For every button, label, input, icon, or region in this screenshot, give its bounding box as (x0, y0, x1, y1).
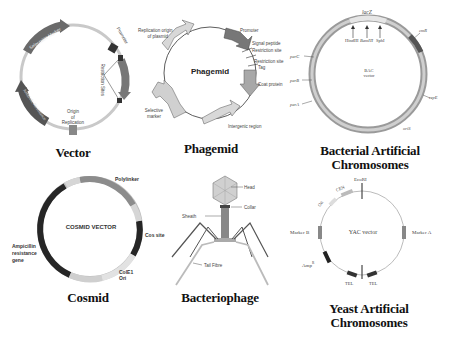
bac-parb-label: parB (290, 78, 299, 84)
selective-marker-line1: Selective (142, 108, 166, 114)
bac-hindiii-label: HindIII (345, 38, 359, 44)
replication-origin-line1: Replication origin (138, 28, 168, 34)
vector-plasmid-diagram (0, 0, 150, 165)
bacteriophage-diagram (150, 165, 290, 338)
phagemid-center-label: Phagemid (184, 67, 236, 76)
yac-marker-b-label: Marker B (290, 230, 309, 236)
phagemid-replication-origin-label: Replication origin of plasmid (138, 28, 168, 39)
yac-panel: EcoRI CEN Ori Marker B Marker A AmpR TEL… (290, 165, 449, 338)
yac-tel-right-label: TEL (369, 281, 377, 287)
bac-repe-label: repE (429, 95, 438, 101)
bac-center-line2: vector (354, 73, 384, 78)
amp-superscript: R (312, 261, 314, 265)
cole1-line2: Ori (119, 276, 133, 282)
phagemid-caption: Phagemid (176, 142, 246, 156)
bac-cmr-label: cmR (419, 28, 427, 34)
yac-marker-a-label: Marker A (412, 230, 431, 236)
bacteriophage-caption: Bacteriophage (170, 291, 270, 305)
phage-sheath-label: Sheath (182, 214, 196, 220)
replication-origin-line2: of plasmid (138, 34, 168, 40)
bac-oris-label: oriS (403, 126, 411, 132)
cosmid-cole1-label: ColE1 Ori (119, 270, 133, 281)
amp-text: Amp (302, 263, 312, 268)
bac-caption-line1: Bacterial Artificial (310, 144, 430, 158)
yac-tel-left-label: TEL (345, 281, 353, 287)
bac-center-label: BAC vector (354, 68, 384, 78)
amp-line1: Ampicillin (12, 243, 37, 250)
vector-origin-label: Origin of Replication (56, 109, 90, 126)
phagemid-restriction-site-1-label: Restriction site (252, 48, 282, 54)
cosmid-center-label: COSMID VECTOR (58, 224, 124, 230)
bac-lacz-label: lacZ (362, 9, 372, 15)
yac-center-label: YAC vector (338, 229, 388, 235)
bac-bamhi-label: BamHI (360, 38, 373, 44)
amp-line3: gene (12, 257, 37, 264)
cosmid-caption: Cosmid (60, 291, 116, 305)
phage-collar-label: Collar (244, 205, 256, 211)
yac-amp-label: AmpR (302, 260, 314, 269)
phagemid-intergenic-label: Intergenic region (228, 124, 262, 130)
phagemid-restriction-site-2-label: Restriction site (254, 59, 284, 65)
phage-head-label: Head (244, 185, 255, 191)
cosmid-polylinker-label: Polylinker (115, 177, 139, 183)
yac-caption-line1: Yeast Artificial (314, 302, 424, 316)
origin-line3: Replication (56, 120, 90, 126)
phagemid-coat-protein-label: Coat protein (258, 82, 283, 88)
phage-tail-fibre-label: Tail Fibre (204, 263, 222, 269)
bac-parc-label: parC (290, 54, 299, 60)
amp-line2: resistance (12, 250, 37, 257)
bac-sphi-label: SphI (376, 38, 385, 44)
phagemid-promoter-label: Promoter (240, 28, 259, 34)
vector-restriction-sites-label: Restriction Sites (100, 63, 106, 96)
vector-caption: Vector (40, 146, 106, 160)
yac-caption-line2: Chromosomes (314, 316, 424, 330)
yac-caption: Yeast Artificial Chromosomes (314, 302, 424, 330)
vector-panel: Selectable Marker Antibiotic Resistance … (0, 0, 150, 165)
yac-ecori-label: EcoRI (354, 177, 367, 183)
bacteriophage-panel: Head Collar Sheath Tail Fibre Bacterioph… (150, 165, 290, 338)
phagemid-tag-label: Tag (258, 65, 265, 71)
phagemid-selective-marker-label: Selective marker (142, 108, 166, 119)
cosmid-ampicillin-label: Ampicillin resistance gene (12, 243, 37, 264)
phagemid-panel: Replication origin of plasmid Promoter S… (140, 0, 300, 165)
bac-para-label: parA (290, 102, 299, 108)
bac-panel: lacZ HindIII BamHI SphI cmR parC parB pa… (290, 0, 449, 170)
cosmid-panel: Polylinker Cos site ColE1 Ori Ampicillin… (0, 165, 150, 338)
selective-marker-line2: marker (142, 114, 166, 120)
phagemid-signal-peptide-label: Signal peptide (252, 41, 281, 47)
